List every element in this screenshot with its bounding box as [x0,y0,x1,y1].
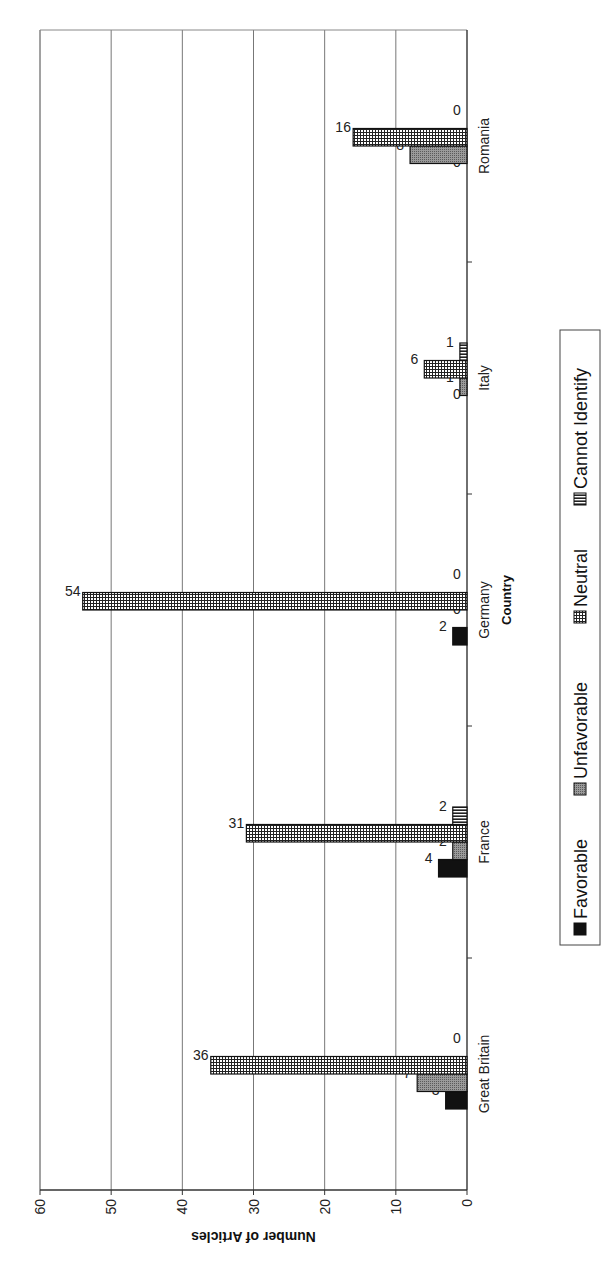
data-label: 2 [439,798,447,814]
bar-unfavorable [417,1074,467,1092]
y-tick-label: 50 [103,1199,119,1215]
category-label: Great Britain [476,1035,492,1114]
bar-neutral [246,825,467,843]
data-label: 1 [446,334,454,350]
bar-chart: 0102030405060Number of Articles37360Grea… [0,0,609,1270]
data-label: 6 [410,351,418,367]
legend-swatch-unfavorable [574,783,586,795]
bar-neutral [83,593,467,611]
bar-unfavorable [460,378,467,396]
data-label: 0 [453,566,461,582]
y-tick-label: 60 [32,1199,48,1215]
y-tick-label: 0 [459,1199,475,1207]
data-label: 31 [229,815,245,831]
category-label: Italy [476,365,492,391]
legend-swatch-favorable [574,923,586,935]
bar-neutral [211,1057,467,1075]
y-tick-label: 30 [246,1199,262,1215]
bar-favorable [453,628,467,646]
category-label: Germany [476,581,492,639]
data-label: 0 [453,102,461,118]
bar-favorable [446,1092,467,1110]
data-label: 2 [439,618,447,634]
y-axis-title: Number of Articles [191,1229,316,1245]
category-label: Romania [476,118,492,174]
bar-unfavorable [410,146,467,164]
legend-label: Cannot Identify [571,368,591,489]
bar-unfavorable [453,842,467,860]
bar-cannot-identify [460,343,467,361]
legend-swatch-neutral [574,611,586,623]
data-label: 54 [65,583,81,599]
data-label: 4 [425,850,433,866]
y-tick-label: 20 [317,1199,333,1215]
x-axis-title: Country [499,574,514,625]
legend-label: Unfavorable [571,682,591,779]
y-tick-label: 10 [388,1199,404,1215]
chart-stage: 0102030405060Number of Articles37360Grea… [0,0,609,1270]
data-label: 36 [193,1047,209,1063]
legend-label: Favorable [571,839,591,919]
bar-favorable [439,860,467,878]
y-tick-label: 40 [174,1199,190,1215]
legend-swatch-cannot-identify [574,493,586,505]
data-label: 0 [453,1030,461,1046]
bar-cannot-identify [453,807,467,825]
bar-neutral [424,361,467,379]
data-label: 16 [335,119,351,135]
legend-label: Neutral [571,549,591,607]
category-label: France [476,820,492,864]
bar-neutral [353,129,467,147]
